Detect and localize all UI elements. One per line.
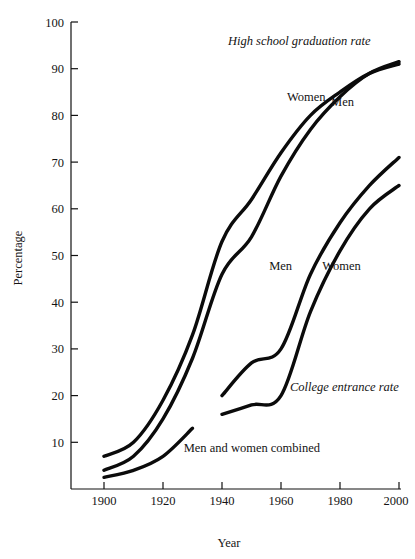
y-tick-label: 50 [52, 249, 65, 263]
annotation-college-entrance-rate: College entrance rate [290, 380, 399, 394]
y-tick-label: 70 [52, 156, 65, 170]
annotation-hs-women: Women [287, 90, 326, 104]
x-axis-tick-labels: 1900 1920 1940 1960 1980 2000 [92, 494, 409, 508]
line-chart: 100 90 80 70 60 50 40 30 20 10 1900 1920… [0, 0, 415, 559]
x-tick-label: 1960 [269, 494, 294, 508]
y-tick-label: 20 [52, 389, 65, 403]
annotation-college-women: Women [322, 259, 361, 273]
y-tick-label: 40 [52, 296, 65, 310]
y-tick-label: 30 [52, 342, 65, 356]
y-tick-label: 90 [52, 62, 65, 76]
annotation-men-and-women-combined: Men and women combined [184, 441, 321, 455]
y-axis-tick-labels: 100 90 80 70 60 50 40 30 20 10 [45, 16, 64, 450]
x-axis-title: Year [217, 536, 241, 550]
y-tick-label: 100 [45, 16, 64, 30]
x-tick-label: 1920 [151, 494, 176, 508]
x-tick-label: 1980 [328, 494, 353, 508]
annotation-college-men: Men [269, 259, 293, 273]
x-axis-ticks [104, 482, 399, 489]
y-tick-label: 10 [52, 436, 65, 450]
x-tick-label: 1900 [92, 494, 117, 508]
annotation-hs-men: Men [331, 95, 355, 109]
annotation-high-school-graduation-rate: High school graduation rate [227, 34, 371, 48]
x-tick-label: 2000 [384, 494, 409, 508]
x-tick-label: 1940 [210, 494, 235, 508]
chart-figure: 100 90 80 70 60 50 40 30 20 10 1900 1920… [0, 0, 415, 559]
y-axis-title: Percentage [11, 230, 25, 285]
y-axis-ticks [71, 22, 78, 442]
curve-college-men [222, 157, 399, 395]
y-tick-label: 80 [52, 109, 65, 123]
y-tick-label: 60 [52, 202, 65, 216]
